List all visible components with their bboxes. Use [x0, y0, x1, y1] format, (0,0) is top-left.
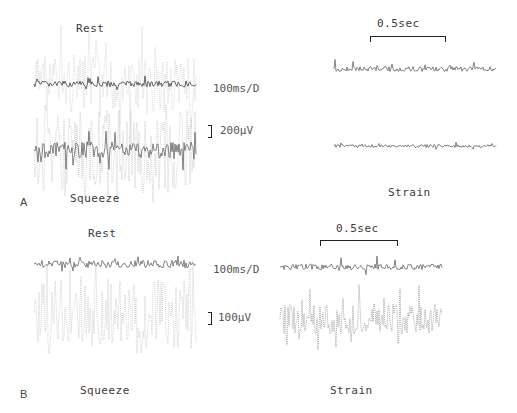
panel-a-rest-label: Rest — [76, 22, 105, 35]
panel-a-rest-squeeze-traces — [34, 42, 199, 182]
panel-b-strain-label: Strain — [330, 384, 373, 397]
panel-a-time-scale-label: 0.5sec — [377, 17, 420, 30]
panel-b-squeeze-label: Squeeze — [80, 384, 130, 397]
panel-b-time-scale-label: 0.5sec — [336, 222, 379, 235]
panel-a-amplitude-bracket — [208, 125, 212, 138]
panel-b-rest-squeeze-traces — [34, 252, 199, 372]
panel-b-timebase: 100ms/D — [213, 263, 259, 276]
panel-b-time-scale-bar — [320, 240, 398, 246]
panel-a-strain-traces — [334, 50, 499, 150]
panel-a-strain-label: Strain — [388, 186, 431, 199]
panel-b-letter: B — [20, 388, 27, 400]
panel-a-time-scale-bar — [370, 36, 446, 42]
panel-a-amplitude-scale: 200µV — [220, 124, 253, 137]
panel-b-strain-traces — [280, 252, 445, 352]
panel-b-amplitude-bracket — [208, 312, 212, 325]
panel-b-rest-label: Rest — [88, 227, 117, 240]
panel-a-timebase: 100ms/D — [213, 82, 259, 95]
panel-a-letter: A — [20, 196, 27, 208]
panel-a-squeeze-label: Squeeze — [70, 192, 120, 205]
panel-b-amplitude-scale: 100µV — [218, 311, 251, 324]
